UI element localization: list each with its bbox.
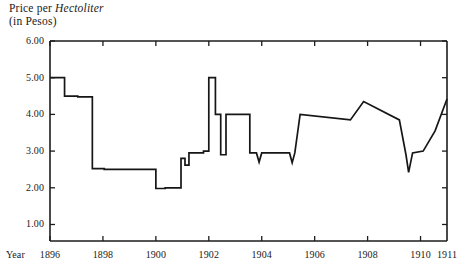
y-tick-label-1-00: 1.00 (4, 218, 44, 229)
chart-title-prefix: Price per (9, 2, 55, 14)
figure-container: Price per Hectoliter (in Pesos) Year 6.0… (0, 0, 468, 274)
x-tick-label-1896: 1896 (30, 249, 70, 260)
price-series-line (50, 78, 447, 189)
y-tick-label-5-00: 5.00 (4, 72, 44, 83)
chart-title-line-2: (in Pesos) (9, 15, 57, 28)
x-tick-label-1908: 1908 (348, 249, 388, 260)
y-tick-label-2-00: 2.00 (4, 182, 44, 193)
y-tick-label-4-00: 4.00 (4, 108, 44, 119)
plot-frame (50, 41, 447, 241)
x-tick-label-1900: 1900 (136, 249, 176, 260)
line-chart-plot (0, 0, 468, 274)
x-tick-label-1906: 1906 (295, 249, 335, 260)
x-tick-label-1911: 1911 (427, 249, 467, 260)
x-tick-label-1898: 1898 (83, 249, 123, 260)
y-tick-label-3-00: 3.00 (4, 145, 44, 156)
x-axis-caption: Year (6, 249, 25, 260)
chart-title-emphasis: Hectoliter (55, 2, 104, 14)
chart-title-line-1: Price per Hectoliter (9, 2, 104, 15)
x-tick-label-1904: 1904 (242, 249, 282, 260)
axis-ticks (50, 41, 447, 241)
x-tick-label-1902: 1902 (189, 249, 229, 260)
y-tick-label-6-00: 6.00 (4, 35, 44, 46)
